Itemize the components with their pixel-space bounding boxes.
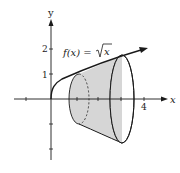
y-tick-label-2: 2: [42, 44, 48, 54]
y-tick-label-1: 1: [42, 70, 48, 80]
y-axis-label: y: [47, 7, 54, 18]
x-tick-label-4: 4: [141, 102, 147, 112]
x-axis-arrow-icon: [161, 97, 168, 102]
function-label-prefix: f(x) =: [62, 47, 95, 58]
function-label-radicand: x: [104, 46, 110, 57]
solid-of-revolution-diagram: y x 1 2 4 f(x) = x: [0, 0, 180, 173]
x-axis-label: x: [170, 94, 176, 105]
curve-arrow-icon: [139, 47, 148, 53]
y-axis-arrow-icon: [49, 19, 54, 26]
